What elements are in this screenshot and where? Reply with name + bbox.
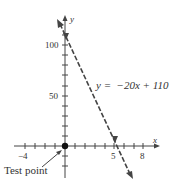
- y-axis-arrow-icon: [63, 15, 68, 21]
- x-tick-label-8: 8: [140, 151, 145, 161]
- chart: x y −4 5 8 100 50 y = −20x + 110 Test po…: [0, 0, 192, 193]
- y-tick-label-100: 100: [45, 40, 59, 50]
- x-tick-label-neg4: −4: [18, 151, 28, 161]
- x-tick-label-5: 5: [111, 151, 116, 161]
- test-point-marker: [62, 143, 68, 149]
- equation-label: y = −20x + 110: [95, 79, 169, 91]
- test-point-label: Test point: [4, 164, 48, 176]
- point-marker: [112, 136, 118, 143]
- y-axis-label: y: [69, 14, 74, 24]
- point-marker: [63, 33, 69, 40]
- line-arrow-bottom-icon: [126, 171, 133, 179]
- x-axis-label: x: [152, 135, 157, 145]
- y-tick-label-50: 50: [49, 91, 59, 101]
- line-series: [60, 24, 130, 174]
